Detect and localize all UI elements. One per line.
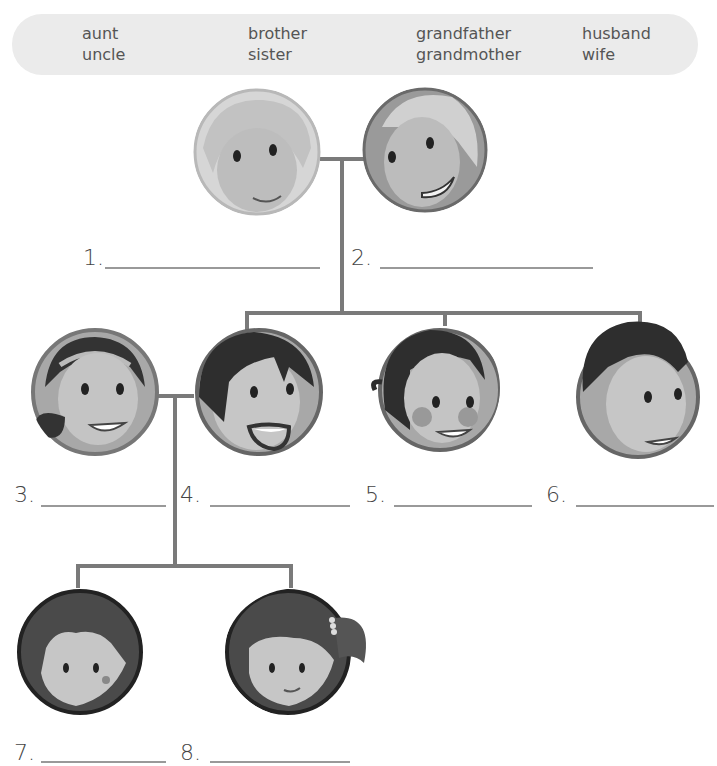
word-brother: brother	[248, 24, 307, 44]
label-1: 1.	[83, 245, 104, 270]
label-5: 5.	[365, 482, 386, 507]
label-8: 8.	[180, 740, 201, 765]
person-3-portrait	[30, 327, 160, 457]
word-husband: husband	[582, 24, 651, 44]
word-grandmother: grandmother	[416, 45, 521, 65]
person-7-portrait	[16, 588, 144, 718]
person-2-portrait	[362, 87, 488, 213]
label-4: 4.	[180, 482, 201, 507]
answer-1-input[interactable]	[105, 244, 324, 268]
label-7: 7.	[14, 740, 35, 765]
answer-6-input[interactable]	[576, 482, 717, 506]
person-8-portrait	[224, 588, 374, 718]
word-grandfather: grandfather	[416, 24, 511, 44]
answer-4-input[interactable]	[210, 482, 354, 506]
word-uncle: uncle	[82, 45, 125, 65]
person-6-portrait	[568, 312, 708, 462]
word-aunt: aunt	[82, 24, 118, 44]
word-wife: wife	[582, 45, 615, 65]
word-bank: aunt uncle brother sister grandfather gr…	[12, 14, 698, 75]
answer-5-input[interactable]	[394, 482, 536, 506]
answer-7-input[interactable]	[41, 740, 170, 762]
word-sister: sister	[248, 45, 292, 65]
label-2: 2.	[351, 245, 372, 270]
person-5-portrait	[370, 320, 500, 456]
person-1-portrait	[193, 88, 321, 216]
answer-2-input[interactable]	[380, 244, 597, 268]
person-4-portrait	[194, 327, 324, 457]
answer-8-input[interactable]	[210, 740, 354, 762]
answer-3-input[interactable]	[41, 482, 170, 506]
label-6: 6.	[546, 482, 567, 507]
label-3: 3.	[14, 482, 35, 507]
